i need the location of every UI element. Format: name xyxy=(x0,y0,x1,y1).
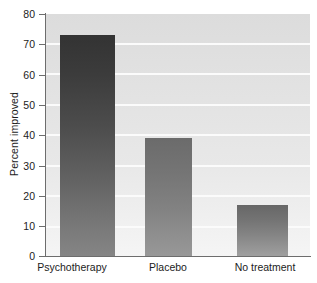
y-tick-mark-10 xyxy=(39,226,46,227)
y-tick-mark-80 xyxy=(39,14,46,15)
y-tick-mark-30 xyxy=(39,166,46,167)
bar-placebo xyxy=(145,138,192,256)
bar-psychotherapy xyxy=(60,35,115,256)
y-tick-label-0: 0 xyxy=(0,251,35,262)
x-tick-label-placebo: Placebo xyxy=(123,261,213,274)
y-tick-label-50: 50 xyxy=(0,100,35,111)
y-tick-label-40: 40 xyxy=(0,130,35,141)
y-tick-mark-50 xyxy=(39,105,46,106)
x-axis-line xyxy=(45,256,311,257)
y-tick-mark-60 xyxy=(39,75,46,76)
y-tick-label-30: 30 xyxy=(0,161,35,172)
y-tick-mark-20 xyxy=(39,196,46,197)
y-tick-label-10: 10 xyxy=(0,221,35,232)
plot-area xyxy=(46,14,310,256)
y-tick-label-80: 80 xyxy=(0,9,35,20)
x-tick-label-no-treatment: No treatment xyxy=(217,261,313,274)
x-tick-label-psychotherapy: Psychotherapy xyxy=(27,261,117,274)
bar-chart-figure: Percent improved 80 70 60 50 40 30 20 10… xyxy=(0,0,317,283)
y-tick-mark-40 xyxy=(39,135,46,136)
y-tick-label-70: 70 xyxy=(0,39,35,50)
bar-no-treatment xyxy=(237,205,288,256)
y-tick-mark-0 xyxy=(39,256,46,257)
y-tick-mark-70 xyxy=(39,44,46,45)
y-tick-label-60: 60 xyxy=(0,70,35,81)
y-tick-label-20: 20 xyxy=(0,191,35,202)
